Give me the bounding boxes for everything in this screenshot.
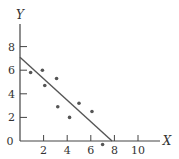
ticks: 2468102468 xyxy=(8,41,145,157)
scatter-chart: 2468102468 Y X 0 xyxy=(0,0,179,159)
x-axis-label: X xyxy=(162,134,172,148)
y-tick-label: 2 xyxy=(8,111,15,124)
data-point xyxy=(101,143,105,147)
fit-line xyxy=(20,57,112,141)
data-point xyxy=(68,116,72,120)
y-tick-label: 8 xyxy=(8,41,15,54)
axes xyxy=(20,24,160,141)
x-tick-label: 6 xyxy=(87,144,94,157)
data-point xyxy=(29,71,33,75)
y-axis-label: Y xyxy=(16,8,25,22)
regression-line xyxy=(20,57,112,141)
y-tick-label: 6 xyxy=(8,64,15,77)
x-tick-label: 10 xyxy=(131,144,145,157)
x-tick-label: 2 xyxy=(40,144,47,157)
data-points xyxy=(29,68,105,146)
origin-label: 0 xyxy=(7,135,14,148)
x-tick-label: 4 xyxy=(64,144,71,157)
x-tick-label: 8 xyxy=(111,144,118,157)
data-point xyxy=(77,101,81,105)
y-tick-label: 4 xyxy=(8,88,15,101)
data-point xyxy=(56,105,60,109)
data-point xyxy=(41,68,45,72)
data-point xyxy=(55,77,59,81)
data-point xyxy=(90,110,94,114)
data-point xyxy=(43,84,47,88)
